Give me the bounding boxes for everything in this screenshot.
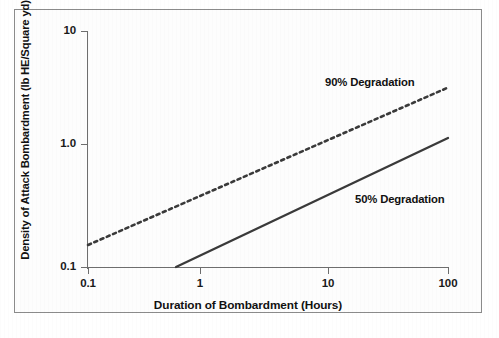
chart-figure: 10 1.0 0.1 0.1 1 10 100 Density of Attac… (0, 0, 499, 338)
data-lines (0, 0, 499, 338)
series-90-degradation-line (88, 88, 447, 245)
series-50-degradation-line (176, 138, 448, 267)
